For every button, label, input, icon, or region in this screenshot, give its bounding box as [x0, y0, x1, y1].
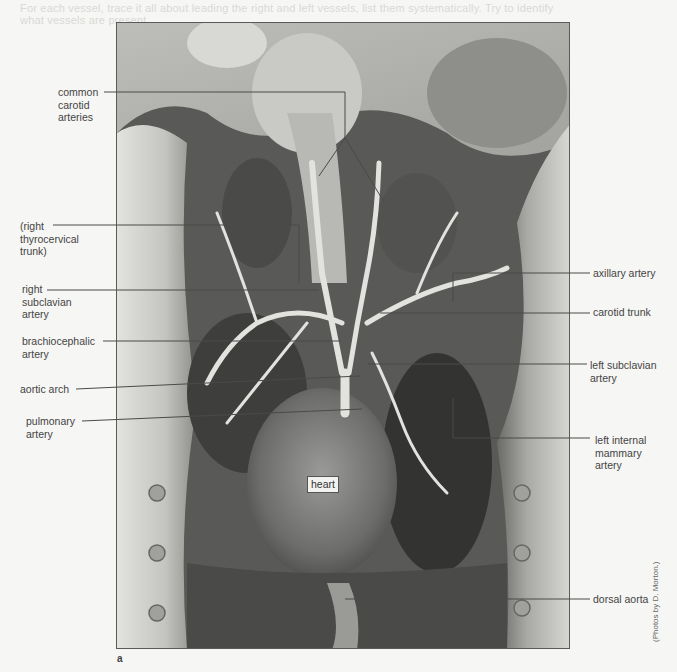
label-axillary-artery: axillary artery [593, 267, 655, 280]
label-carotid-trunk: carotid trunk [593, 306, 651, 319]
label-left-internal-mammary-artery: left internal mammary artery [595, 434, 646, 472]
label-right-subclavian-artery: right subclavian artery [22, 283, 72, 321]
label-right-thyrocervical-trunk: (right thyrocervical trunk) [20, 220, 79, 258]
label-left-subclavian-artery: left subclavian artery [590, 359, 657, 384]
label-common-carotid-arteries: common carotid arteries [58, 86, 98, 124]
dissection-photo [116, 22, 570, 649]
label-brachiocephalic-artery: brachiocephalic artery [22, 335, 95, 360]
panel-letter: a [117, 653, 123, 664]
label-dorsal-aorta: dorsal aorta [593, 593, 648, 606]
bleed-through-text-1: For each vessel, trace it all about lead… [20, 2, 554, 14]
label-pulmonary-artery: pulmonary artery [26, 415, 75, 440]
label-aortic-arch: aortic arch [20, 383, 69, 396]
label-heart: heart [307, 476, 339, 493]
photo-credit: (Photos by D. Morton.) [651, 562, 660, 642]
dissection-photo-illustration [117, 23, 570, 649]
